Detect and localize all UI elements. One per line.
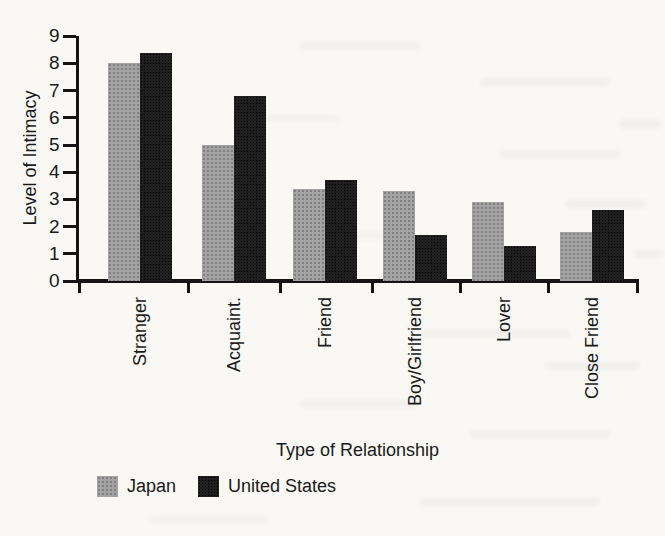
x-tick bbox=[371, 279, 374, 293]
bar-japan bbox=[293, 189, 325, 281]
bar-chart: Level of Intimacy 0123456789 StrangerAcq… bbox=[0, 0, 665, 536]
category-label: Friend bbox=[315, 297, 335, 348]
bar-united-states bbox=[140, 53, 172, 281]
bar-japan bbox=[560, 232, 592, 281]
bar-japan bbox=[383, 191, 415, 281]
category-label: Close Friend bbox=[582, 297, 602, 399]
bar-united-states bbox=[325, 180, 357, 281]
y-tick bbox=[63, 116, 76, 119]
bar-united-states bbox=[504, 246, 536, 281]
bar-united-states bbox=[592, 210, 624, 281]
y-tick bbox=[63, 198, 76, 201]
x-tick bbox=[187, 279, 190, 293]
y-tick bbox=[63, 144, 76, 147]
japan-swatch-icon bbox=[97, 476, 118, 497]
x-axis-title: Type of Relationship bbox=[76, 440, 639, 461]
x-tick bbox=[636, 279, 639, 293]
y-tick-label: 2 bbox=[20, 217, 60, 237]
y-axis-line bbox=[76, 36, 79, 283]
category-label: Stranger bbox=[130, 297, 150, 366]
legend: Japan United States bbox=[97, 476, 336, 497]
united-states-swatch-icon bbox=[198, 476, 219, 497]
x-tick bbox=[279, 279, 282, 293]
legend-item-united-states: United States bbox=[198, 476, 336, 497]
bar-united-states bbox=[415, 235, 447, 281]
y-tick-label: 3 bbox=[20, 189, 60, 209]
bar-japan bbox=[472, 202, 504, 281]
scanned-page: Level of Intimacy 0123456789 StrangerAcq… bbox=[0, 0, 665, 536]
category-label: Lover bbox=[494, 297, 514, 342]
x-tick bbox=[459, 279, 462, 293]
y-tick-label: 9 bbox=[20, 26, 60, 46]
legend-label-united-states: United States bbox=[228, 476, 336, 497]
y-tick-label: 7 bbox=[20, 81, 60, 101]
y-tick bbox=[63, 225, 76, 228]
y-tick-label: 8 bbox=[20, 53, 60, 73]
bar-united-states bbox=[234, 96, 266, 281]
y-tick-label: 4 bbox=[20, 162, 60, 182]
x-tick bbox=[547, 279, 550, 293]
legend-label-japan: Japan bbox=[127, 476, 176, 497]
bar-japan bbox=[202, 145, 234, 281]
y-tick-label: 1 bbox=[20, 244, 60, 264]
y-tick bbox=[63, 280, 76, 283]
y-tick-label: 5 bbox=[20, 135, 60, 155]
category-label: Acquaint. bbox=[224, 297, 244, 372]
category-label: Boy/Girlfriend bbox=[405, 297, 425, 406]
y-tick bbox=[63, 171, 76, 174]
y-tick bbox=[63, 62, 76, 65]
y-tick-label: 0 bbox=[20, 271, 60, 291]
y-tick bbox=[63, 35, 76, 38]
y-tick bbox=[63, 89, 76, 92]
legend-item-japan: Japan bbox=[97, 476, 176, 497]
y-tick-label: 6 bbox=[20, 108, 60, 128]
bar-japan bbox=[108, 63, 140, 281]
x-tick bbox=[78, 279, 81, 293]
y-tick bbox=[63, 252, 76, 255]
